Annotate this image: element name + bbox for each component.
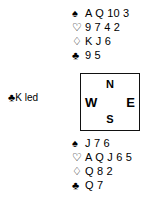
north-hand: ♠ A Q 10 3 ♡ 9 7 4 2 ♢ K J 6 ♣ 9 5 (72, 6, 157, 62)
south-hearts-cards: A Q J 6 5 (85, 150, 132, 164)
opening-lead-note: ♣K led (8, 91, 38, 104)
bridge-deal-diagram: ♠ A Q 10 3 ♡ 9 7 4 2 ♢ K J 6 ♣ 9 5 N W E… (0, 0, 157, 201)
spade-icon: ♠ (72, 6, 85, 20)
south-diamonds-cards: Q 8 2 (85, 164, 113, 178)
compass-south-label: S (81, 114, 139, 125)
south-clubs-cards: Q 7 (85, 178, 103, 192)
north-diamonds-cards: K J 6 (85, 34, 111, 48)
north-clubs-cards: 9 5 (85, 48, 101, 62)
heart-icon: ♡ (72, 20, 85, 34)
north-hearts-row: ♡ 9 7 4 2 (72, 20, 157, 34)
heart-icon: ♡ (72, 150, 85, 164)
north-clubs-row: ♣ 9 5 (72, 48, 157, 62)
club-icon: ♣ (72, 178, 85, 192)
spade-icon: ♠ (72, 136, 85, 150)
south-hearts-row: ♡ A Q J 6 5 (72, 150, 157, 164)
compass-west-label: W (85, 96, 97, 109)
compass-box: N W E S (80, 73, 140, 131)
compass-east-label: E (126, 96, 135, 109)
south-spades-row: ♠ J 7 6 (72, 136, 157, 150)
north-spades-cards: A Q 10 3 (85, 6, 129, 20)
opening-lead-card: K (15, 92, 22, 103)
north-spades-row: ♠ A Q 10 3 (72, 6, 157, 20)
south-diamonds-row: ♢ Q 8 2 (72, 164, 157, 178)
south-spades-cards: J 7 6 (85, 136, 110, 150)
opening-lead-text: led (25, 92, 38, 103)
south-hand: ♠ J 7 6 ♡ A Q J 6 5 ♢ Q 8 2 ♣ Q 7 (72, 136, 157, 192)
diamond-icon: ♢ (72, 34, 85, 48)
north-diamonds-row: ♢ K J 6 (72, 34, 157, 48)
north-hearts-cards: 9 7 4 2 (85, 20, 120, 34)
diamond-icon: ♢ (72, 164, 85, 178)
south-clubs-row: ♣ Q 7 (72, 178, 157, 192)
club-icon: ♣ (72, 48, 85, 62)
compass-north-label: N (81, 79, 139, 90)
